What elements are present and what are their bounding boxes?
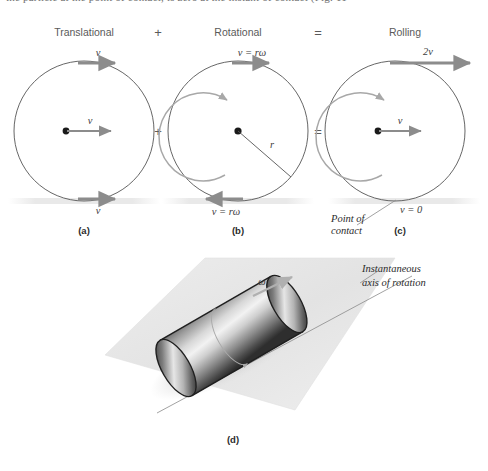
label-a-top: v (96, 47, 101, 58)
panel-label-d: (d) (227, 434, 239, 445)
label-c-top: 2v (423, 46, 433, 57)
panel-c-rolling: 2v v v = 0 Point of contact (c) (316, 46, 470, 236)
operator-equals-top: = (314, 25, 322, 40)
panel-b-rotational: v = rω r v = rω (b) (159, 47, 308, 236)
panel-label-a: (a) (78, 225, 90, 236)
heading-translational: Translational (54, 26, 114, 38)
operator-plus-top: + (154, 25, 162, 40)
label-b-bottom: v = rω (212, 206, 241, 217)
label-axis-line2: axis of rotation (362, 277, 426, 288)
heading-rolling: Rolling (389, 26, 421, 38)
label-c-contact-velocity: v = 0 (400, 204, 423, 215)
label-c-center: v (398, 115, 403, 126)
label-a-center: v (88, 115, 93, 126)
panel-label-c: (c) (394, 225, 406, 236)
label-axis-line1: Instantaneous (361, 263, 421, 274)
label-b-radius: r (270, 139, 275, 150)
rotation-curve-arrow-b (159, 93, 227, 181)
radius-line-b (238, 131, 291, 177)
label-omega: ω (258, 276, 265, 287)
label-b-top: v = rω (238, 47, 267, 58)
label-point-of-contact-line1: Point of (330, 213, 367, 224)
label-point-of-contact-line2: contact (331, 225, 363, 236)
panel-a-translational: v v v (a) (14, 47, 154, 236)
panel-label-b: (b) (232, 225, 244, 236)
panel-d-cylinder: ω Instantaneous axis of rotation (d) (105, 258, 426, 445)
rotation-curve-arrow-c (316, 93, 384, 181)
figure-canvas: Translational + Rotational = Rolling v v… (0, 0, 488, 471)
label-a-bottom: v (96, 205, 101, 216)
physics-figure-rolling-motion: the particle at the point of contact, is… (0, 0, 488, 471)
heading-rotational: Rotational (214, 26, 261, 38)
